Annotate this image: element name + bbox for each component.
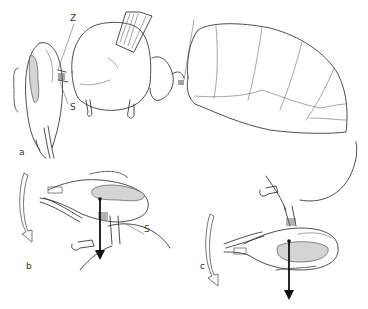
annotation-s-panel-b: S — [144, 225, 150, 234]
annotation-s-panel-a: S — [70, 103, 76, 112]
panel-label-c: c — [200, 262, 205, 271]
insect-anatomy-figure: a b c Z S S — [0, 0, 368, 309]
panel-a-drawing — [14, 12, 347, 158]
panel-b-drawing — [20, 171, 170, 270]
panel-label-a: a — [19, 148, 25, 157]
panel-label-b: b — [26, 262, 32, 271]
panel-c-drawing — [206, 142, 357, 300]
figure-drawing — [0, 0, 368, 309]
annotation-z: Z — [70, 14, 76, 23]
